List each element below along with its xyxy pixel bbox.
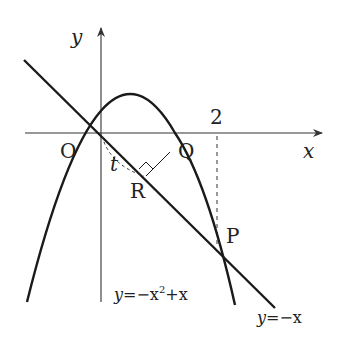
tick-label-2: 2 <box>210 105 223 129</box>
line-equation: y=−x <box>256 308 302 327</box>
segment-t-label: t <box>110 152 119 176</box>
origin-label: O <box>60 139 76 163</box>
diagram-canvas: y x O 2 P Q R t y=−x2+x y=−x <box>0 0 344 347</box>
parabola-eq-rhs: +x <box>165 285 187 304</box>
point-P-label: P <box>226 224 239 248</box>
y-axis-label: y <box>70 25 83 49</box>
parabola-eq-mid: =−x <box>123 285 159 304</box>
segment-QR <box>146 152 170 176</box>
point-Q-label: Q <box>178 139 194 163</box>
point-R-label: R <box>130 179 146 203</box>
right-angle-mark <box>139 162 153 169</box>
parabola-equation: y=−x2+x <box>113 284 188 304</box>
x-axis-label: x <box>303 139 314 163</box>
svg-text:y=−x: y=−x <box>256 308 302 327</box>
svg-text:y=−x2+x: y=−x2+x <box>113 284 188 304</box>
line-eq-rhs: =−x <box>266 308 302 327</box>
